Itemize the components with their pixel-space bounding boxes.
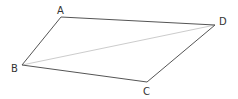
diagonal-bd xyxy=(22,25,215,65)
side-ad xyxy=(61,17,215,25)
vertex-label-c: C xyxy=(143,86,150,97)
quadrilateral-diagram: A B C D xyxy=(0,0,238,99)
side-dc xyxy=(147,25,215,82)
vertex-label-d: D xyxy=(219,16,227,27)
vertex-label-b: B xyxy=(11,63,18,74)
vertex-label-a: A xyxy=(57,5,64,16)
side-cb xyxy=(22,65,147,82)
